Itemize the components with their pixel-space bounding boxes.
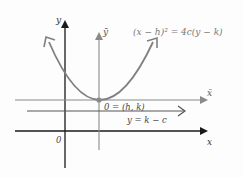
equation-label: (x − h)² = 4c(y − k) xyxy=(133,27,223,37)
origin-label: 0 xyxy=(56,135,62,145)
x-bar-axis-label: x̄ xyxy=(207,88,212,98)
vertex-label: 0 = (h, k) xyxy=(104,102,145,112)
y-axis-label: y xyxy=(55,15,62,25)
directrix-label: y = k − c xyxy=(126,115,167,125)
parabola-diagram: (x − h)² = 4c(y − k) y ȳ x̄ x 0 = (h, k)… xyxy=(0,0,243,177)
x-axis-label: x xyxy=(207,137,212,147)
vertex-point xyxy=(96,97,101,102)
y-bar-axis-label: ȳ xyxy=(102,27,109,37)
